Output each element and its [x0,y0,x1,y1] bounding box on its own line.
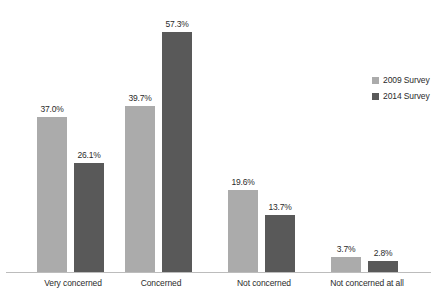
category-label-concerned: Concerned [125,278,197,288]
category-label-very-concerned: Very concerned [37,278,109,288]
x-axis-baseline [6,272,431,273]
legend-swatch-2014-icon [372,93,379,100]
bar-value-label: 19.6% [231,178,254,187]
bar-value-label: 37.0% [40,105,63,114]
bar-value-label: 57.3% [165,20,188,29]
bar-value-label: 13.7% [268,203,291,212]
legend-label-2014: 2014 Survey [383,92,430,101]
category-label-not-concerned-at-all: Not concerned at all [317,278,417,288]
bar-group-not-concerned-at-all: 3.7% 2.8% [331,0,403,273]
bar-chart: 37.0% 26.1% 39.7% 57.3% 19.6% [0,0,437,306]
legend-item-2009[interactable]: 2009 Survey [372,74,436,87]
bar-group-concerned: 39.7% 57.3% [125,0,197,273]
bar-value-label: 2.8% [374,249,393,258]
legend-swatch-2009-icon [372,77,379,84]
bar-group-not-concerned: 19.6% 13.7% [228,0,300,273]
bar-2014-not-concerned[interactable] [265,215,295,273]
plot-area: 37.0% 26.1% 39.7% 57.3% 19.6% [0,0,437,273]
bar-2009-not-concerned-at-all[interactable] [331,257,361,273]
bar-value-label: 3.7% [337,245,356,254]
bar-2014-very-concerned[interactable] [74,163,104,273]
category-label-not-concerned: Not concerned [228,278,300,288]
legend-item-2014[interactable]: 2014 Survey [372,90,436,103]
bar-value-label: 26.1% [77,151,100,160]
chart-legend: 2009 Survey 2014 Survey [372,74,436,106]
bar-2009-not-concerned[interactable] [228,190,258,273]
bar-2009-very-concerned[interactable] [37,117,67,273]
bar-value-label: 39.7% [128,94,151,103]
bar-group-very-concerned: 37.0% 26.1% [37,0,109,273]
bar-2014-concerned[interactable] [162,32,192,273]
legend-label-2009: 2009 Survey [383,76,430,85]
category-axis-labels: Very concerned Concerned Not concerned N… [0,278,437,298]
bar-2009-concerned[interactable] [125,106,155,273]
